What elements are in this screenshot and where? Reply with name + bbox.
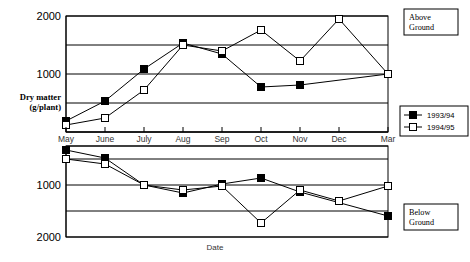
legend-entry-1993-94[interactable]: 1993/94 (404, 111, 454, 120)
legend-label-1993-94: 1993/94 (427, 111, 454, 120)
xtick-label-june: June (96, 134, 115, 144)
y-axis-label-line2: (g/plant) (29, 102, 61, 112)
legend-open-square-icon (410, 124, 417, 131)
upper-series-1994-95-line (66, 19, 388, 125)
xtick-label-july: July (136, 134, 152, 144)
x-axis-label: Date (207, 243, 224, 252)
upper-gridlines (66, 16, 388, 132)
upper-ytick-2000: 2000 (37, 10, 61, 22)
xtick-label-oct: Oct (254, 134, 268, 144)
xtick-label-mar: Mar (381, 134, 396, 144)
lower-ytick-2000: 2000 (37, 231, 61, 243)
panel-above-ground: 2000 1000 Dry matter (g/plant) (20, 10, 396, 144)
legend-label-1994-95: 1994/95 (427, 123, 454, 132)
callout-below-ground: Below Ground (404, 204, 458, 230)
callout-below-ground-line1: Below (409, 208, 430, 217)
lower-series-1993-94-line (66, 150, 388, 216)
chart-svg: 2000 1000 Dry matter (g/plant) (0, 0, 470, 262)
xtick-label-aug: Aug (175, 134, 190, 144)
lower-plot-frame (66, 146, 388, 237)
dry-matter-chart-figure: 2000 1000 Dry matter (g/plant) (0, 0, 470, 262)
callout-above-ground-line2: Ground (409, 23, 434, 32)
callout-above-ground: Above Ground (404, 9, 458, 35)
legend-filled-square-icon (410, 112, 417, 119)
upper-series-1993-94-markers (63, 40, 392, 125)
legend-entry-1994-95[interactable]: 1994/95 (404, 123, 454, 132)
callout-below-ground-line2: Ground (409, 218, 434, 227)
upper-series-1994-95-markers (63, 16, 392, 129)
xtick-label-nov: Nov (292, 134, 308, 144)
callout-above-ground-line1: Above (409, 13, 431, 22)
lower-gridlines (66, 146, 388, 237)
xtick-label-sep: Sep (214, 134, 229, 144)
chart-legend: 1993/94 1994/95 (400, 106, 468, 136)
upper-series-1993-94-line (66, 43, 388, 121)
lower-ytick-1000: 1000 (37, 179, 61, 191)
xtick-label-may: May (58, 134, 75, 144)
panel-below-ground: 1000 2000 (37, 146, 392, 243)
xtick-label-dec: Dec (331, 134, 347, 144)
upper-ytick-1000: 1000 (37, 68, 61, 80)
lower-series-1994-95-line (66, 159, 388, 223)
x-axis-tick-labels: May June July Aug Sep Oct Nov Dec Mar (58, 134, 396, 144)
y-axis-label-line1: Dry matter (20, 92, 61, 102)
upper-x-ticks (66, 127, 388, 132)
